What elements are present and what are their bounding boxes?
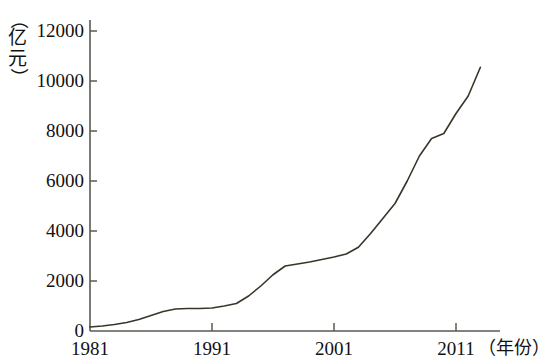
data-series-line	[90, 67, 480, 327]
chart-axes	[90, 20, 500, 331]
chart-tick-marks	[90, 31, 456, 331]
chart-plot-area	[0, 0, 551, 364]
chart-page: （ 亿 元 ） 020004000600080001000012000 1981…	[0, 0, 551, 364]
